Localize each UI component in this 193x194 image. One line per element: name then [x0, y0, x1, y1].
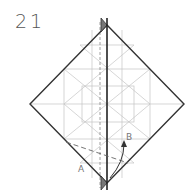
label-b: B — [126, 132, 132, 142]
top-flap — [101, 18, 107, 32]
origami-diagram: A B — [0, 0, 193, 194]
fold-line-a — [66, 142, 128, 163]
bottom-flap — [101, 176, 107, 190]
label-a: A — [78, 164, 85, 174]
